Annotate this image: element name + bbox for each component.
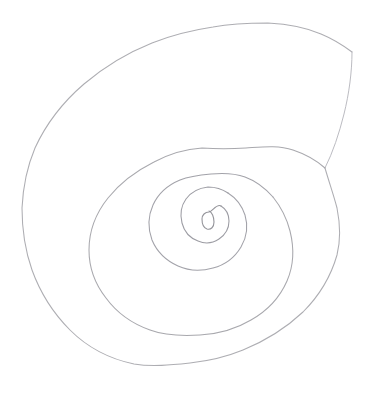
- paper-background: [0, 0, 368, 399]
- spiral-drawing: [0, 0, 368, 399]
- drawing-canvas: [0, 0, 368, 399]
